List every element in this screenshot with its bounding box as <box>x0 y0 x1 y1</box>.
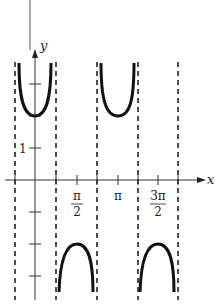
x-tick-label-pi-half-den: 2 <box>73 205 81 219</box>
x-tick-label-3pi-half-den: 2 <box>154 205 162 219</box>
x-tick-label-3pi-half-num: 3π <box>150 189 166 203</box>
y-tick-label-1: 1 <box>19 142 27 156</box>
x-axis-arrow-icon <box>197 177 206 183</box>
x-axis-label: x <box>207 172 215 187</box>
lower-branch-2 <box>140 244 174 292</box>
lower-branch-1 <box>59 244 93 292</box>
y-axis-label: y <box>39 38 48 53</box>
upper-branch-2 <box>101 63 134 116</box>
x-tick-label-pi-half-num: π <box>73 189 81 203</box>
x-tick-label-pi: π <box>114 189 122 203</box>
secant-graph: x y 1 π 2 π 3π 2 <box>0 0 215 305</box>
y-axis-arrow-icon <box>32 49 38 58</box>
